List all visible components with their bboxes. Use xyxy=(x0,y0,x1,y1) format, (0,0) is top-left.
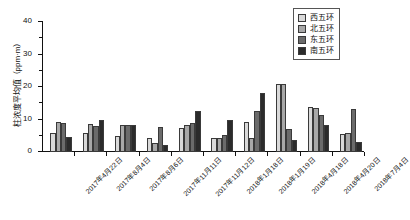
y-axis-tick: 40 xyxy=(38,21,43,22)
bar xyxy=(163,145,168,152)
y-axis-tick: 10 xyxy=(38,119,43,120)
y-axis-tick-label: 30 xyxy=(23,50,32,58)
bar-group xyxy=(83,22,105,152)
y-axis-title: 柱浓度平均值（ppm·m） xyxy=(13,18,23,148)
bar-group xyxy=(179,22,201,152)
bar xyxy=(260,93,265,152)
legend-item-label: 北五环 xyxy=(310,24,334,33)
y-axis-minor-tick xyxy=(39,70,42,71)
y-axis-minor-tick xyxy=(39,37,42,38)
x-axis-tick xyxy=(106,152,107,156)
x-axis-tick xyxy=(300,152,301,156)
y-axis-tick: 20 xyxy=(38,86,43,87)
y-axis-tick-label: 0 xyxy=(28,147,32,155)
bar xyxy=(356,142,361,152)
bar-group xyxy=(115,22,137,152)
bar xyxy=(227,120,232,153)
legend-item-label: 东五环 xyxy=(310,35,334,44)
bar xyxy=(292,140,297,152)
y-axis-tick: 30 xyxy=(38,54,43,55)
legend-item[interactable]: 西五环 xyxy=(298,12,334,23)
bar-group xyxy=(244,22,266,152)
x-axis-tick xyxy=(203,152,204,156)
x-axis-tick xyxy=(235,152,236,156)
legend-item[interactable]: 北五环 xyxy=(298,23,334,34)
x-axis-tick xyxy=(139,152,140,156)
x-axis-tick xyxy=(332,152,333,156)
legend-swatch-icon xyxy=(298,14,306,22)
x-axis-tick xyxy=(74,152,75,156)
x-axis-tick xyxy=(267,152,268,156)
bar xyxy=(195,111,200,152)
legend-swatch-icon xyxy=(298,47,306,55)
legend-item-label: 南五环 xyxy=(310,46,334,55)
y-axis-tick-label: 20 xyxy=(23,82,32,90)
y-axis-tick-label: 10 xyxy=(23,115,32,123)
bar xyxy=(99,120,104,153)
y-axis-tick-label: 40 xyxy=(23,17,32,25)
y-axis-tick: 0 xyxy=(38,151,43,152)
x-axis-tick xyxy=(171,152,172,156)
x-axis-tick-label: 2017年8月6日 xyxy=(147,156,184,193)
y-axis-line xyxy=(42,22,43,152)
bar-group xyxy=(147,22,169,152)
legend-swatch-icon xyxy=(298,25,306,33)
bar xyxy=(131,125,136,152)
y-axis-minor-tick xyxy=(39,135,42,136)
legend-item-label: 西五环 xyxy=(310,13,334,22)
y-axis-minor-tick xyxy=(39,102,42,103)
legend-swatch-icon xyxy=(298,36,306,44)
bar-group xyxy=(50,22,72,152)
x-axis-tick xyxy=(364,152,365,156)
bar-group xyxy=(211,22,233,152)
legend-item[interactable]: 东五环 xyxy=(298,34,334,45)
legend: 西五环北五环东五环南五环 xyxy=(293,8,340,60)
legend-item[interactable]: 南五环 xyxy=(298,45,334,56)
bar xyxy=(66,137,71,152)
bar xyxy=(324,125,329,152)
bar-group xyxy=(340,22,362,152)
